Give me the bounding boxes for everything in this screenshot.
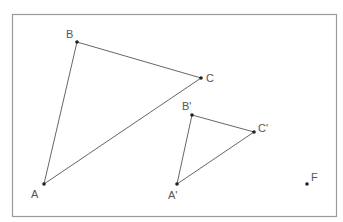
points-layer	[42, 40, 309, 186]
point-a	[42, 182, 46, 186]
label-c-prime: C'	[258, 122, 268, 134]
diagram-frame	[13, 15, 337, 217]
triangle-a-prime-b-prime-c-prime	[177, 115, 254, 184]
point-c	[199, 76, 203, 80]
label-a: A	[31, 188, 39, 200]
point-a-prime	[175, 182, 179, 186]
label-b-prime: B'	[182, 100, 191, 112]
triangles-layer	[44, 42, 254, 184]
label-c: C	[206, 72, 214, 84]
geometry-diagram: ABCA'B'C'F	[0, 0, 343, 222]
label-b: B	[66, 28, 73, 40]
label-a-prime: A'	[168, 189, 177, 201]
label-f: F	[311, 171, 318, 183]
point-b-prime	[190, 113, 194, 117]
point-b	[75, 40, 79, 44]
point-c-prime	[252, 130, 256, 134]
triangle-abc	[44, 42, 201, 184]
point-f	[305, 182, 309, 186]
